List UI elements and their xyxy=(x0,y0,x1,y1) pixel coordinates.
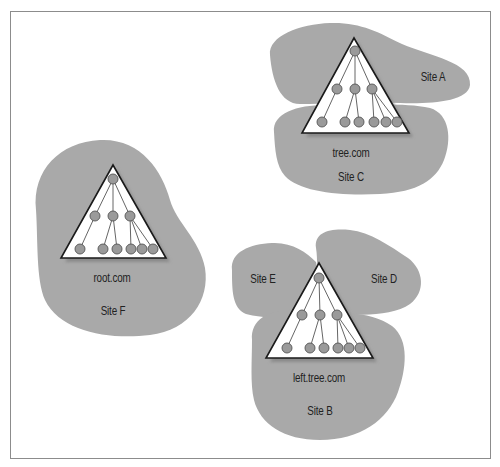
tree-node xyxy=(126,244,136,254)
domain-label: tree.com xyxy=(333,146,370,160)
tree-node xyxy=(333,343,343,353)
site-label-f: Site F xyxy=(101,304,126,318)
tree-node xyxy=(108,174,118,184)
tree-node xyxy=(355,343,365,353)
tree-node xyxy=(332,84,342,94)
tree-node xyxy=(369,117,379,127)
domain-label: root.com xyxy=(94,271,131,285)
tree-node xyxy=(381,117,391,127)
tree-node xyxy=(332,310,342,320)
tree-node xyxy=(317,117,327,127)
tree-node xyxy=(350,84,360,94)
tree-node xyxy=(112,244,122,254)
tree-node xyxy=(75,244,85,254)
tree-node xyxy=(137,244,147,254)
tree-node xyxy=(319,343,329,353)
tree-node xyxy=(344,343,354,353)
tree-node xyxy=(148,244,158,254)
tree-node xyxy=(98,244,108,254)
domain-label: left.tree.com xyxy=(293,371,345,385)
site-label-a: Site A xyxy=(421,70,446,84)
tree-node xyxy=(354,117,364,127)
tree-node xyxy=(90,211,100,221)
tree-node xyxy=(282,343,292,353)
site-label-e: Site E xyxy=(250,272,275,286)
tree-node xyxy=(125,211,135,221)
tree-node xyxy=(108,211,118,221)
tree-node xyxy=(314,273,324,283)
site-label-c: Site C xyxy=(338,170,364,184)
tree-node xyxy=(367,84,377,94)
tree-node xyxy=(315,310,325,320)
site-label-d: Site D xyxy=(371,272,397,286)
tree-node xyxy=(350,46,360,56)
tree-node xyxy=(297,310,307,320)
tree-node xyxy=(392,117,402,127)
site-label-b: Site B xyxy=(307,404,332,418)
tree-node xyxy=(340,117,350,127)
tree-node xyxy=(305,343,315,353)
